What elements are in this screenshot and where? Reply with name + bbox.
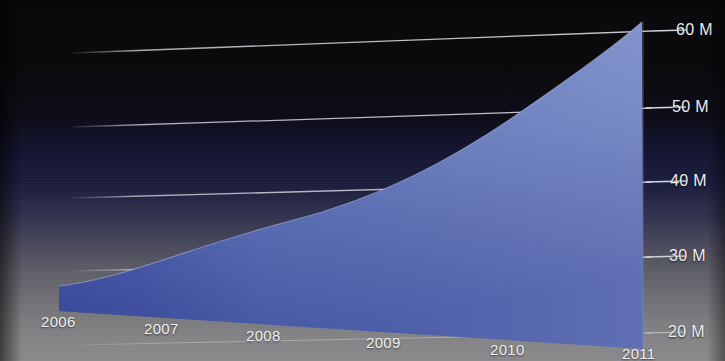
area-chart-plot (0, 0, 725, 361)
x-axis-tick-2006: 2006 (41, 313, 76, 330)
y-axis-tick-20m: 20 M (668, 323, 705, 341)
y-axis-tick-60m: 60 M (676, 21, 713, 39)
x-axis-tick-2009: 2009 (366, 334, 401, 351)
y-axis-tick-40m: 40 M (670, 172, 707, 190)
x-axis-tick-2010: 2010 (490, 341, 525, 358)
gridline-60m (72, 31, 652, 53)
area-series-subscribers (59, 22, 643, 349)
x-axis-tick-2011: 2011 (622, 345, 655, 361)
area-fill-shade (59, 22, 643, 349)
x-axis-tick-2008: 2008 (246, 327, 281, 344)
chart-screenshot: 60 M 50 M 40 M 30 M 20 M 2006 2007 2008 … (0, 0, 725, 361)
y-axis-tick-30m: 30 M (669, 247, 706, 265)
y-axis-tick-50m: 50 M (672, 98, 709, 116)
x-axis-tick-2007: 2007 (144, 320, 179, 337)
